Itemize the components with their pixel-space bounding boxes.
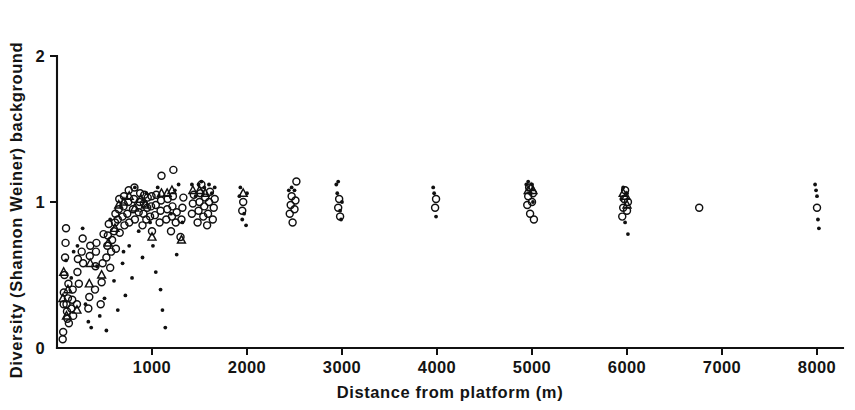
data-point-dot <box>287 188 291 192</box>
data-point-dot <box>64 259 68 263</box>
data-point-dot <box>531 200 535 204</box>
data-point-circle <box>60 328 67 335</box>
data-point-dot <box>815 194 819 198</box>
data-point-circle <box>85 305 92 312</box>
series-triangle <box>59 183 631 319</box>
data-point-dot <box>213 186 217 190</box>
data-point-circle <box>78 248 85 255</box>
data-point-dot <box>813 183 817 187</box>
data-point-dot <box>177 183 181 187</box>
data-point-dot <box>432 191 436 195</box>
data-point-dot <box>202 186 206 190</box>
data-point-dot <box>169 212 173 216</box>
data-point-circle <box>289 219 296 226</box>
data-point-dot <box>526 180 530 184</box>
data-point-dot <box>814 188 818 192</box>
data-point-dot <box>244 223 248 227</box>
data-point-dot <box>151 244 155 248</box>
scatter-plot-figure: 10002000300040005000600070008000 012 Dis… <box>0 0 855 410</box>
data-point-circle <box>131 216 138 223</box>
data-point-dot <box>98 314 102 318</box>
data-point-dot <box>141 256 145 260</box>
data-markers-layer <box>59 166 821 342</box>
data-point-dot <box>89 326 93 330</box>
x-axis-ticks: 10002000300040005000600070008000 <box>133 348 836 376</box>
data-point-circle <box>62 239 69 246</box>
data-point-circle <box>696 204 703 211</box>
data-point-dot <box>127 244 131 248</box>
data-point-dot <box>621 186 625 190</box>
data-point-dot <box>86 320 90 324</box>
x-tick-label: 6000 <box>608 358 646 376</box>
data-point-dot <box>242 212 246 216</box>
data-point-circle <box>530 216 537 223</box>
data-point-dot <box>159 288 163 292</box>
data-point-dot <box>619 197 623 201</box>
y-tick-label: 2 <box>35 47 45 65</box>
data-point-dot <box>173 188 177 192</box>
data-point-dot <box>69 276 73 280</box>
data-point-dot <box>122 250 126 254</box>
data-point-circle <box>240 199 247 206</box>
data-point-dot <box>197 183 201 187</box>
data-point-circle <box>74 269 81 276</box>
data-point-dot <box>816 218 820 222</box>
data-point-circle <box>179 204 186 211</box>
series-small-dot <box>64 180 821 333</box>
data-point-dot <box>84 302 88 306</box>
data-point-dot <box>207 183 211 187</box>
data-point-dot <box>163 326 167 330</box>
data-point-dot <box>339 218 343 222</box>
data-point-dot <box>161 308 165 312</box>
data-point-dot <box>81 226 85 230</box>
data-point-dot <box>530 183 534 187</box>
data-point-circle <box>433 196 440 203</box>
data-point-dot <box>148 221 152 225</box>
data-point-circle <box>100 231 107 238</box>
data-point-circle <box>63 225 70 232</box>
data-point-circle <box>293 178 300 185</box>
plot-canvas: 10002000300040005000600070008000 012 Dis… <box>0 0 855 410</box>
data-point-circle <box>79 235 86 242</box>
data-point-dot <box>108 218 112 222</box>
x-tick-label: 4000 <box>418 358 456 376</box>
data-point-dot <box>103 296 107 300</box>
data-point-dot <box>175 253 179 257</box>
data-point-triangle <box>98 271 106 278</box>
data-point-dot <box>240 218 244 222</box>
data-point-dot <box>76 244 80 248</box>
data-point-dot <box>626 232 630 236</box>
data-point-triangle <box>86 259 94 266</box>
data-point-circle <box>168 228 175 235</box>
data-point-dot <box>194 194 198 198</box>
data-point-circle <box>98 279 105 286</box>
data-point-dot <box>340 200 344 204</box>
data-point-dot <box>200 180 204 184</box>
data-point-circle <box>211 196 218 203</box>
data-point-dot <box>528 191 532 195</box>
data-point-circle <box>156 219 163 226</box>
x-tick-label: 7000 <box>703 358 741 376</box>
data-point-circle <box>194 219 201 226</box>
data-point-dot <box>95 264 99 268</box>
data-point-circle <box>86 293 93 300</box>
data-point-circle <box>209 216 216 223</box>
data-point-circle <box>97 301 104 308</box>
data-point-circle <box>204 222 211 229</box>
data-point-circle <box>432 204 439 211</box>
data-point-dot <box>210 191 214 195</box>
y-tick-label: 1 <box>35 193 45 211</box>
data-point-dot <box>623 221 627 225</box>
data-point-dot <box>431 186 435 190</box>
data-point-dot <box>625 191 629 195</box>
data-point-dot <box>293 188 297 192</box>
data-point-dot <box>124 294 128 298</box>
data-point-circle <box>92 248 99 255</box>
data-point-dot <box>238 194 242 198</box>
data-point-dot <box>116 308 120 312</box>
data-point-dot <box>238 186 242 190</box>
data-point-circle <box>170 166 177 173</box>
data-point-dot <box>144 191 148 195</box>
data-point-dot <box>190 183 194 187</box>
x-tick-label: 5000 <box>513 358 551 376</box>
